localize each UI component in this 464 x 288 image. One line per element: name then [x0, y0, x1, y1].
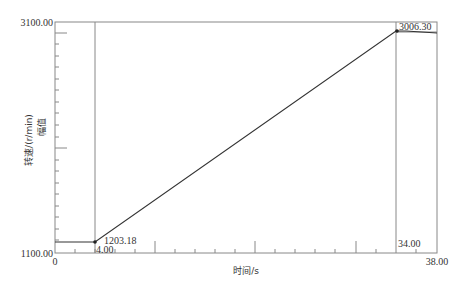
cursor-2-x-value: 34.00	[398, 238, 421, 249]
x-axis-max-label: 38.00	[426, 256, 449, 267]
y-axis-title: 转速/(r/min)	[23, 114, 34, 166]
plot-frame	[55, 22, 437, 253]
cursor-1-x-value: 4.00	[96, 244, 114, 255]
cursor-2-y-value: 3006.30	[399, 21, 432, 32]
y-axis-subtitle: 幅值	[36, 118, 47, 136]
speed-series-line	[55, 31, 437, 242]
y-axis-min-label: 1100.00	[21, 248, 53, 259]
y-axis-ticks	[55, 33, 67, 240]
speed-chart: 1203.18 4.00 3006.30 34.00 3100.00 1100.…	[0, 0, 464, 288]
x-axis-min-label: 0	[53, 256, 58, 267]
y-axis-max-label: 3100.00	[21, 17, 54, 28]
x-axis-title: 时间/s	[233, 265, 259, 276]
